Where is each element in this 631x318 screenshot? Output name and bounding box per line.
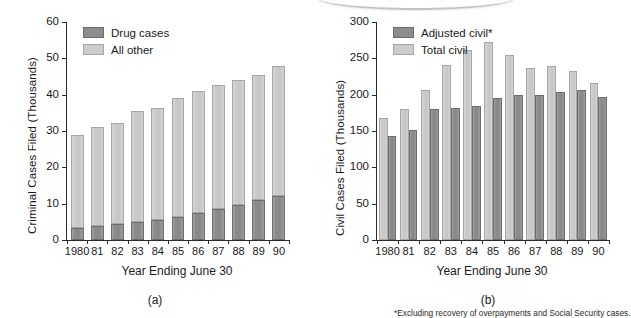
x-tick-label: 1980 [375,245,399,257]
y-tick-label: 20 [46,160,59,172]
legend-item: Adjusted civil* [393,25,493,40]
y-tick: 40 [62,95,67,96]
bar [505,55,514,240]
legend-item: Drug cases [83,25,169,40]
bar-segment [252,75,265,200]
y-tick: 30 [62,131,67,132]
bar [547,66,556,240]
y-tick-label: 10 [46,197,59,209]
y-tick-label: 250 [350,51,369,63]
x-tick [87,240,88,244]
bar [514,95,523,240]
x-axis-title-a: Year Ending June 30 [122,264,233,278]
bar [400,109,409,240]
bar-segment [172,98,185,216]
y-tick-label: 30 [46,124,59,136]
panel-label-a: (a) [148,293,163,307]
x-tick [419,240,420,244]
y-tick-label: 300 [350,15,369,27]
x-tick [107,240,108,244]
x-tick [567,240,568,244]
bar-segment [252,200,265,240]
bar-segment [232,80,245,205]
x-tick-label: 84 [152,245,164,257]
x-tick [504,240,505,244]
x-tick [588,240,589,244]
legend-swatch-drug [83,27,104,38]
bar [526,68,535,240]
bar [442,65,451,240]
bar [569,71,578,240]
x-tick [377,240,378,244]
x-tick-label: 87 [212,245,224,257]
x-tick [289,240,290,244]
x-tick-label: 82 [424,245,436,257]
x-tick-label: 81 [403,245,415,257]
legend-swatch-total [393,44,414,55]
bar [463,50,472,240]
legend-label-adjusted: Adjusted civil* [421,27,493,39]
y-tick: 50 [372,204,377,205]
x-tick-label: 83 [445,245,457,257]
y-axis-title-a: Criminal Cases Filed (Thousands) [26,57,38,234]
bar-segment [111,224,124,240]
bar-segment [192,91,205,213]
bar-segment [212,209,225,240]
bar [472,106,481,240]
bar-segment [131,222,144,240]
bar [388,136,397,240]
bar-segment [212,85,225,209]
panel-label-b: (b) [481,293,496,307]
x-tick [525,240,526,244]
x-tick-label: 88 [550,245,562,257]
legend-swatch-other [83,44,104,55]
bar-segment [232,205,245,240]
y-tick: 50 [62,58,67,59]
y-tick-label: 60 [46,15,59,27]
x-tick [228,240,229,244]
x-tick [128,240,129,244]
x-tick-label: 86 [192,245,204,257]
x-tick-label: 83 [132,245,144,257]
legend-swatch-adjusted [393,27,414,38]
bar-segment [172,217,185,240]
x-tick [208,240,209,244]
x-tick [609,240,610,244]
bar [556,92,565,240]
y-tick-label: 100 [350,160,369,172]
x-tick-label: 90 [273,245,285,257]
bar [598,97,607,240]
legend-item: All other [83,42,169,57]
bar-segment [151,108,164,221]
x-tick [67,240,68,244]
legend-a: Drug casesAll other [83,25,169,59]
x-tick [148,240,149,244]
bar [430,109,439,240]
x-tick [249,240,250,244]
bar [409,130,418,240]
bar-segment [91,127,104,226]
x-tick-label: 89 [253,245,265,257]
y-tick-label: 0 [53,233,59,245]
bar [421,90,430,240]
bar [379,118,388,240]
bar-segment [91,226,104,240]
legend-item: Total civil [393,42,493,57]
bar-segment [71,228,84,240]
x-tick-label: 86 [508,245,520,257]
y-tick: 200 [372,95,377,96]
y-tick-label: 150 [350,124,369,136]
bar-segment [111,123,124,225]
x-tick-label: 84 [466,245,478,257]
y-tick-label: 200 [350,88,369,100]
y-axis-title-b: Civil Cases Filed (Thousands) [334,80,346,236]
x-tick [546,240,547,244]
figure-criminal-cases: Criminal Cases Filed (Thousands) 0102030… [0,0,308,318]
bar [484,42,493,240]
y-tick-label: 50 [356,197,369,209]
bar-segment [151,220,164,240]
plot-area-a: 0102030405060 198081828384858687888990 D… [66,22,289,241]
x-tick-label: 89 [571,245,583,257]
bar-segment [192,213,205,240]
y-tick: 100 [372,167,377,168]
